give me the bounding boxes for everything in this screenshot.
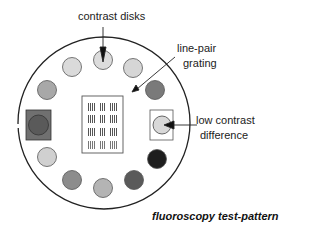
diagram-caption: fluoroscopy test-pattern bbox=[152, 210, 279, 222]
disk-bottom bbox=[94, 179, 113, 198]
disk-bottom-right bbox=[125, 171, 144, 190]
label-line-pair: line-pair bbox=[177, 42, 216, 55]
disk-left-lower bbox=[38, 148, 57, 167]
label-grating: grating bbox=[183, 57, 217, 70]
disk-upper-right bbox=[124, 59, 143, 78]
disk-bottom-left bbox=[63, 171, 82, 190]
label-difference: difference bbox=[200, 129, 248, 142]
disk-upper-left bbox=[63, 58, 82, 77]
label-contrast-disks: contrast disks bbox=[78, 10, 145, 23]
disk-right-lower bbox=[148, 150, 167, 169]
disk-left-upper bbox=[38, 81, 57, 100]
dark-square-disk bbox=[29, 115, 49, 135]
line-pair-grating bbox=[82, 96, 123, 153]
label-low-contrast: low contrast bbox=[196, 114, 255, 127]
disk-right-upper bbox=[146, 81, 165, 100]
